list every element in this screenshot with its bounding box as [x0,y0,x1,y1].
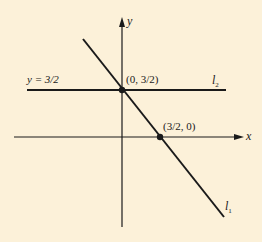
l2-label: l2 [212,74,219,89]
point-0-3-2 [119,87,125,93]
y-axis-arrow-icon [119,17,125,27]
diagram-graphics [0,0,262,242]
point-label-3-2-0: (3/2, 0) [163,121,195,132]
x-axis-label: x [246,130,251,142]
x-axis-arrow-icon [234,134,244,140]
l1-label: l1 [225,200,232,215]
line-l1 [83,39,224,217]
point-3-2-0 [157,134,163,140]
l2-subscript: 2 [215,81,219,89]
l2-equation-label: y = 3/2 [27,74,59,85]
point-label-0-3-2: (0, 3/2) [126,74,158,85]
coordinate-diagram: y x y = 3/2 (0, 3/2) (3/2, 0) l2 l1 [0,0,262,242]
l1-subscript: 1 [228,207,232,215]
y-axis-label: y [127,15,132,27]
